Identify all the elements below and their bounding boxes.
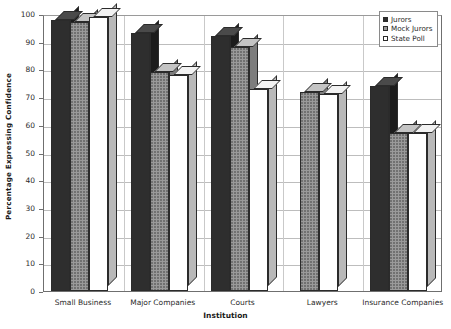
group-separator <box>124 16 125 291</box>
y-tick-label: 0 <box>13 287 35 296</box>
bar-top-face <box>375 77 403 86</box>
x-tick-label: Insurance Companies <box>362 298 442 307</box>
bar-front <box>370 86 389 291</box>
bar <box>230 47 249 291</box>
y-tick-label: 10 <box>13 259 35 268</box>
x-axis-title: Institution <box>0 311 451 320</box>
bar <box>300 92 319 291</box>
x-tick-label: Small Business <box>43 298 123 307</box>
bar <box>370 86 389 291</box>
group-separator <box>283 16 284 291</box>
bar-front <box>70 22 89 291</box>
bar-front <box>300 92 319 291</box>
plot-area <box>43 15 442 292</box>
bar <box>51 20 70 291</box>
x-tick-label: Lawyers <box>282 298 362 307</box>
bar-front <box>89 17 108 291</box>
bar-front <box>319 94 338 291</box>
legend-label-state-poll: State Poll <box>391 34 425 43</box>
legend-label-mock-jurors: Mock Jurors <box>391 24 433 33</box>
bar-front <box>408 133 427 291</box>
bar-side-face <box>338 81 347 287</box>
y-tick-label: 70 <box>13 93 35 102</box>
x-tick-label: Major Companies <box>123 298 203 307</box>
legend-label-jurors: Jurors <box>391 15 412 24</box>
y-tick-label: 60 <box>13 121 35 130</box>
y-tick-label: 30 <box>13 204 35 213</box>
y-tick-label: 40 <box>13 176 35 185</box>
y-tick-mark <box>39 292 43 293</box>
bar <box>89 17 108 291</box>
y-tick-label: 90 <box>13 38 35 47</box>
legend-item-jurors: Jurors <box>383 15 433 24</box>
bar-side-face <box>108 3 117 286</box>
y-tick-label: 80 <box>13 65 35 74</box>
legend-item-mock-jurors: Mock Jurors <box>383 24 433 33</box>
legend-item-state-poll: State Poll <box>383 34 433 43</box>
bar-front <box>389 133 408 291</box>
bar-front <box>51 20 70 291</box>
bar <box>408 133 427 291</box>
bar <box>150 72 169 291</box>
bar <box>211 36 230 291</box>
bar-side-face <box>268 75 277 286</box>
bar-front <box>150 72 169 291</box>
bar-chart: Percentage Expressing Confidence 0102030… <box>0 0 451 329</box>
bar <box>169 75 188 291</box>
bar-front <box>169 75 188 291</box>
x-tick-label: Courts <box>203 298 283 307</box>
bar <box>131 33 150 291</box>
legend-swatch-jurors <box>383 17 388 22</box>
group-separator <box>363 16 364 291</box>
bar <box>319 94 338 291</box>
legend-swatch-mock-jurors <box>383 26 388 31</box>
legend-swatch-state-poll <box>383 36 388 41</box>
bar-front <box>230 47 249 291</box>
chart-legend: Jurors Mock Jurors State Poll <box>379 11 438 47</box>
bar-side-face <box>427 120 436 287</box>
y-axis-ticks: 0102030405060708090100 <box>0 0 43 329</box>
bar <box>389 133 408 291</box>
bar-front <box>211 36 230 291</box>
y-tick-label: 20 <box>13 232 35 241</box>
bar-side-face <box>188 61 197 286</box>
group-separator <box>204 16 205 291</box>
y-tick-label: 50 <box>13 149 35 158</box>
bar <box>70 22 89 291</box>
bar-front <box>131 33 150 291</box>
y-tick-label: 100 <box>13 10 35 19</box>
bar-front <box>249 89 268 291</box>
bar <box>249 89 268 291</box>
